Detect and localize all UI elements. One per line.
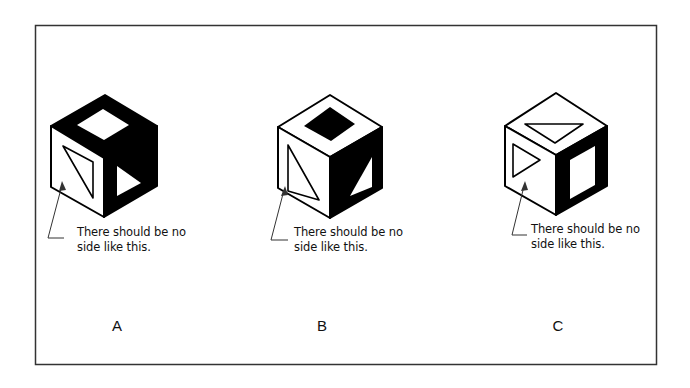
caption-a: There should be no side like this.: [77, 225, 186, 255]
cube-figure: There should be no side like this. There…: [0, 0, 690, 388]
caption-b-line1: There should be no: [294, 225, 403, 240]
caption-b-line2: side like this.: [294, 240, 403, 255]
cube-a: [51, 95, 157, 217]
cube-c: [505, 93, 607, 215]
arrow-b: [271, 186, 288, 240]
caption-c-line2: side like this.: [531, 237, 640, 252]
cube-b: [278, 95, 382, 218]
caption-a-line2: side like this.: [77, 240, 186, 255]
caption-a-line1: There should be no: [77, 225, 186, 240]
caption-b: There should be no side like this.: [294, 225, 403, 255]
figure-canvas: [0, 0, 690, 388]
panel-label-b: B: [317, 317, 327, 334]
panel-label-a: A: [112, 317, 122, 334]
panel-label-c: C: [553, 317, 564, 334]
caption-c-line1: There should be no: [531, 222, 640, 237]
caption-c: There should be no side like this.: [531, 222, 640, 252]
